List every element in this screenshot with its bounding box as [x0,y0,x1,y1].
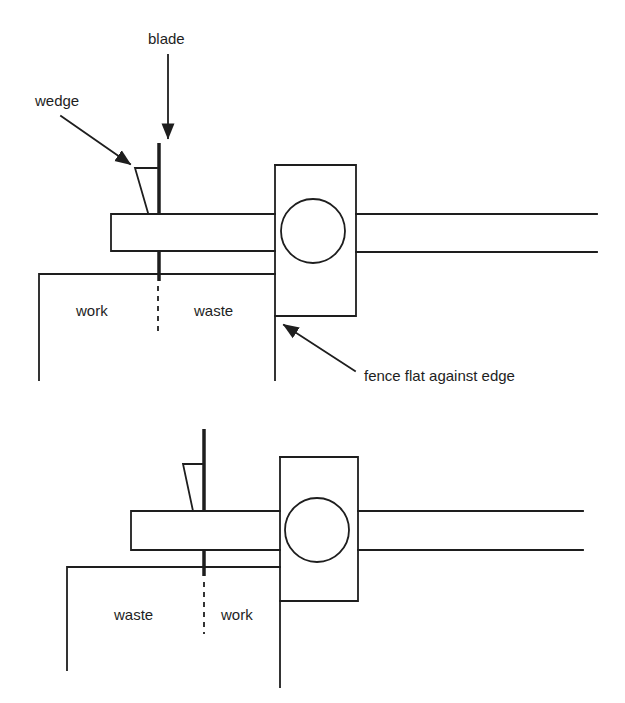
top-waste-label: waste [193,302,233,319]
fence-arrow-icon [284,325,355,371]
top-work-label: work [75,302,108,319]
blade-label: blade [148,30,185,47]
fence-note-label: fence flat against edge [364,367,515,384]
top-gauge-bar-left [111,214,275,251]
bottom-diagram: waste work [67,429,583,687]
top-fence-knob-circle [281,199,345,263]
diagram-canvas: blade wedge work waste fence flat agains… [0,0,625,703]
bottom-waste-label: waste [113,606,153,623]
bottom-gauge-bar-left [131,511,280,550]
top-workpiece-outline [39,274,275,380]
bottom-fence-knob-circle [285,498,349,562]
top-diagram: blade wedge work waste fence flat agains… [34,30,597,384]
bottom-work-label: work [220,606,253,623]
wedge-arrow-icon [61,116,130,164]
wedge-label: wedge [34,92,79,109]
top-wedge [135,168,157,213]
bottom-wedge [183,464,203,511]
bottom-fence-box [280,457,358,601]
